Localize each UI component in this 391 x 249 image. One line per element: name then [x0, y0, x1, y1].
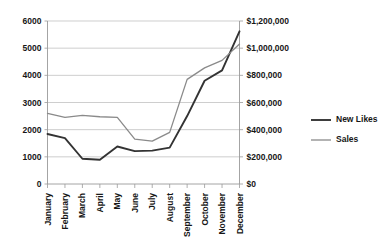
right-axis-tick-label: $200,000 — [247, 152, 283, 162]
left-axis-tick-label: 2000 — [23, 125, 42, 135]
right-axis-tick-labels: $0$200,000$400,000$600,000$800,000$1,000… — [240, 16, 290, 189]
left-axis-tick-label: 5000 — [23, 43, 42, 53]
x-axis-label-february: February — [60, 193, 70, 230]
left-axis-tick-label: 4000 — [23, 70, 42, 80]
x-axis-label-november: November — [217, 192, 227, 234]
chart-legend: New LikesSales — [311, 114, 378, 144]
x-axis-label-june: June — [130, 193, 140, 213]
x-axis-label-march: March — [77, 193, 87, 218]
right-axis-tick-label: $600,000 — [247, 98, 283, 108]
gridlines — [48, 21, 240, 157]
right-axis-tick-label: $1,000,000 — [247, 43, 290, 53]
left-axis-tick-label: 6000 — [23, 16, 42, 26]
legend-label-sales: Sales — [336, 134, 358, 144]
legend-label-new-likes: New Likes — [336, 114, 378, 124]
right-axis-tick-label: $0 — [247, 179, 257, 189]
x-axis-label-may: May — [112, 193, 122, 210]
x-axis-label-july: July — [147, 193, 157, 210]
x-axis-label-december: December — [235, 192, 245, 234]
x-axis-label-august: August — [165, 193, 175, 222]
x-axis-label-september: September — [182, 192, 192, 237]
series-line-sales — [48, 44, 240, 141]
right-axis-tick-label: $800,000 — [247, 70, 283, 80]
left-axis-tick-labels: 0100020003000400050006000 — [23, 16, 48, 189]
left-axis-tick-label: 3000 — [23, 98, 42, 108]
x-axis-tick-marks — [48, 184, 240, 188]
chart-container: 0100020003000400050006000 $0$200,000$400… — [0, 0, 391, 249]
x-axis-label-april: April — [95, 193, 105, 212]
x-axis-label-october: October — [200, 192, 210, 225]
left-axis-tick-label: 0 — [37, 179, 42, 189]
x-axis-month-labels: JanuaryFebruaryMarchAprilMayJuneJulyAugu… — [43, 192, 245, 237]
x-axis-label-january: January — [43, 193, 53, 226]
line-chart: 0100020003000400050006000 $0$200,000$400… — [0, 0, 391, 249]
left-axis-tick-label: 1000 — [23, 152, 42, 162]
right-axis-tick-label: $400,000 — [247, 125, 283, 135]
right-axis-tick-label: $1,200,000 — [247, 16, 290, 26]
data-series — [48, 31, 240, 160]
